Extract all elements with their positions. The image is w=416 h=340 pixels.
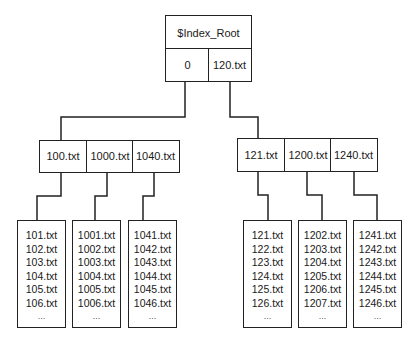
ellipsis: ... <box>18 310 65 323</box>
root-entry-120: 120.txt <box>209 49 250 80</box>
file-entry: 1001.txt <box>73 229 120 243</box>
ellipsis: ... <box>354 310 401 323</box>
file-entry: 101.txt <box>18 229 65 243</box>
connector-root-right <box>230 81 258 138</box>
file-entry: 1041.txt <box>129 229 176 243</box>
root-node: $Index_Root 0 120.txt <box>165 15 252 82</box>
file-entry: 1202.txt <box>299 229 346 243</box>
file-entry: 1244.txt <box>354 270 401 284</box>
file-entry: 1203.txt <box>299 243 346 257</box>
root-title: $Index_Root <box>166 16 251 49</box>
file-entry: 123.txt <box>244 256 291 270</box>
file-entry: 1003.txt <box>73 256 120 270</box>
file-entry: 1205.txt <box>299 270 346 284</box>
index-entry: 1000.txt <box>87 141 133 171</box>
connector-121 <box>258 171 268 220</box>
file-entry: 121.txt <box>244 229 291 243</box>
leaf-node: 1202.txt 1203.txt 1204.txt 1205.txt 1206… <box>298 220 347 328</box>
file-entry: 1245.txt <box>354 283 401 297</box>
connector-root-left <box>61 81 185 140</box>
ellipsis: ... <box>244 310 291 323</box>
file-entry: 1046.txt <box>129 297 176 311</box>
file-entry: 126.txt <box>244 297 291 311</box>
file-entry: 125.txt <box>244 283 291 297</box>
file-entry: 124.txt <box>244 270 291 284</box>
file-entry: 102.txt <box>18 243 65 257</box>
file-entry: 1004.txt <box>73 270 120 284</box>
file-entry: 103.txt <box>18 256 65 270</box>
file-entry: 122.txt <box>244 243 291 257</box>
root-entry-0: 0 <box>166 49 209 80</box>
file-entry: 104.txt <box>18 270 65 284</box>
file-entry: 1042.txt <box>129 243 176 257</box>
connector-100 <box>37 172 61 220</box>
connector-1040 <box>143 172 154 220</box>
connector-1200 <box>307 171 322 220</box>
file-entry: 1045.txt <box>129 283 176 297</box>
index-entry: 1240.txt <box>331 139 376 170</box>
index-entry: 1040.txt <box>133 141 178 171</box>
index-entry: 121.txt <box>238 139 284 170</box>
leaf-node: 121.txt 122.txt 123.txt 124.txt 125.txt … <box>243 220 292 328</box>
file-entry: 1243.txt <box>354 256 401 270</box>
file-entry: 1005.txt <box>73 283 120 297</box>
file-entry: 105.txt <box>18 283 65 297</box>
file-entry: 1044.txt <box>129 270 176 284</box>
file-entry: 1207.txt <box>299 297 346 311</box>
index-entry: 100.txt <box>40 141 86 171</box>
index-node-left: 100.txt 1000.txt 1040.txt <box>39 140 180 173</box>
index-node-right: 121.txt 1200.txt 1240.txt <box>237 138 378 172</box>
ellipsis: ... <box>129 310 176 323</box>
file-entry: 1002.txt <box>73 243 120 257</box>
file-entry: 1206.txt <box>299 283 346 297</box>
file-entry: 1246.txt <box>354 297 401 311</box>
ellipsis: ... <box>73 310 120 323</box>
leaf-node: 1241.txt 1242.txt 1243.txt 1244.txt 1245… <box>353 220 402 328</box>
file-entry: 1204.txt <box>299 256 346 270</box>
connector-1240 <box>354 171 377 220</box>
file-entry: 1241.txt <box>354 229 401 243</box>
file-entry: 106.txt <box>18 297 65 311</box>
leaf-node: 101.txt 102.txt 103.txt 104.txt 105.txt … <box>17 220 66 328</box>
connector-1000 <box>95 172 107 220</box>
file-entry: 1242.txt <box>354 243 401 257</box>
file-entry: 1043.txt <box>129 256 176 270</box>
file-entry: 1006.txt <box>73 297 120 311</box>
leaf-node: 1041.txt 1042.txt 1043.txt 1044.txt 1045… <box>128 220 177 328</box>
leaf-node: 1001.txt 1002.txt 1003.txt 1004.txt 1005… <box>72 220 121 328</box>
index-entry: 1200.txt <box>285 139 331 170</box>
ellipsis: ... <box>299 310 346 323</box>
